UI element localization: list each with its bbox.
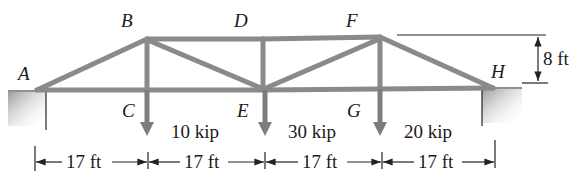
joint-label-A: A: [16, 63, 30, 84]
member-FH: [380, 37, 493, 88]
truss-diagram: A B C D E F G H 10 kip 30 kip 20 kip 8 f…: [0, 0, 577, 194]
height-label: 8 ft: [543, 48, 570, 69]
member-BE: [150, 41, 261, 88]
load-label-E: 30 kip: [288, 121, 336, 142]
load-arrow-G: [373, 89, 387, 136]
member-EG: [263, 89, 380, 90]
joint-label-G: G: [347, 100, 361, 121]
span-label-2: 17 ft: [184, 151, 220, 172]
member-EF: [266, 40, 377, 88]
span-label-3: 17 ft: [302, 151, 338, 172]
support-right: [482, 88, 522, 126]
span-dimensions: 17 ft 17 ft 17 ft 17 ft: [35, 140, 495, 172]
load-arrow-E: [258, 90, 272, 136]
truss-members: [37, 37, 493, 90]
span-label-4: 17 ft: [418, 151, 454, 172]
joint-label-H: H: [490, 61, 506, 82]
member-GH: [380, 88, 493, 89]
member-DF: [263, 37, 380, 39]
joint-label-B: B: [121, 10, 133, 31]
joint-label-C: C: [122, 100, 135, 121]
member-AB: [37, 39, 147, 90]
support-left: [8, 91, 46, 130]
joint-label-E: E: [236, 100, 249, 121]
joint-label-F: F: [345, 10, 358, 31]
load-label-C: 10 kip: [171, 121, 219, 142]
joint-label-D: D: [233, 10, 248, 31]
span-label-1: 17 ft: [66, 151, 102, 172]
load-arrow-C: [140, 90, 154, 136]
load-label-G: 20 kip: [404, 121, 452, 142]
